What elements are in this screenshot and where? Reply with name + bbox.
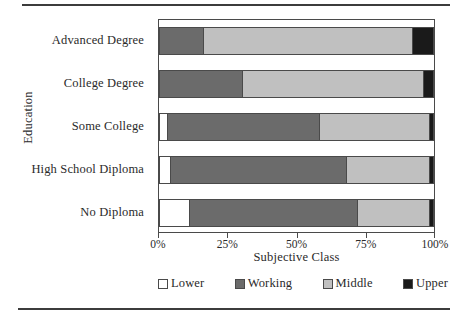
bar-segment-upper[interactable] bbox=[423, 70, 434, 98]
x-axis-tick-label: 100% bbox=[422, 238, 449, 250]
legend-swatch-icon bbox=[323, 279, 333, 289]
legend-label: Working bbox=[248, 276, 292, 291]
top-rule bbox=[22, 4, 450, 6]
y-axis-tick-label: College Degree bbox=[64, 76, 144, 91]
legend-label: Upper bbox=[416, 276, 448, 291]
bar-segment-middle[interactable] bbox=[319, 113, 429, 141]
legend-label: Lower bbox=[171, 276, 204, 291]
bottom-rule bbox=[18, 308, 450, 310]
bar-segment-upper[interactable] bbox=[412, 27, 434, 55]
bar-row[interactable] bbox=[159, 70, 434, 98]
x-axis-title: Subjective Class bbox=[158, 250, 435, 265]
y-axis-tick-label: No Diploma bbox=[80, 204, 144, 219]
y-axis-tick-label: Some College bbox=[72, 119, 144, 134]
bar-segment-working[interactable] bbox=[159, 27, 203, 55]
x-axis-tick-label: 25% bbox=[217, 238, 238, 250]
bar-row[interactable] bbox=[159, 113, 434, 141]
plot-area bbox=[158, 19, 435, 233]
legend-swatch-icon bbox=[403, 279, 413, 289]
legend-item-middle[interactable]: Middle bbox=[323, 276, 373, 291]
bar-segment-upper[interactable] bbox=[429, 156, 435, 184]
bar-segment-working[interactable] bbox=[170, 156, 346, 184]
legend-swatch-icon bbox=[235, 279, 245, 289]
legend-item-working[interactable]: Working bbox=[235, 276, 292, 291]
legend-label: Middle bbox=[336, 276, 373, 291]
bar-row[interactable] bbox=[159, 156, 434, 184]
legend-item-lower[interactable]: Lower bbox=[158, 276, 204, 291]
bar-segment-lower[interactable] bbox=[159, 156, 170, 184]
x-axis-tick-label: 50% bbox=[286, 238, 307, 250]
y-axis-tick-label: Advanced Degree bbox=[52, 33, 144, 48]
figure-container: Education Advanced DegreeCollege DegreeS… bbox=[0, 0, 465, 318]
bar-segment-working[interactable] bbox=[167, 113, 318, 141]
legend-item-upper[interactable]: Upper bbox=[403, 276, 448, 291]
legend-swatch-icon bbox=[158, 279, 168, 289]
bar-segment-middle[interactable] bbox=[357, 199, 429, 227]
legend: LowerWorkingMiddleUpper bbox=[158, 276, 448, 291]
x-axis-tick-label: 75% bbox=[355, 238, 376, 250]
bar-segment-middle[interactable] bbox=[242, 70, 424, 98]
bar-segment-lower[interactable] bbox=[159, 199, 189, 227]
bar-segment-upper[interactable] bbox=[429, 199, 435, 227]
bar-segment-middle[interactable] bbox=[203, 27, 412, 55]
bar-segment-upper[interactable] bbox=[429, 113, 435, 141]
y-axis-tick-label: High School Diploma bbox=[31, 161, 144, 176]
bar-row[interactable] bbox=[159, 199, 434, 227]
bar-segment-working[interactable] bbox=[159, 70, 242, 98]
bar-segment-working[interactable] bbox=[189, 199, 357, 227]
y-axis-tick-labels: Advanced DegreeCollege DegreeSome Colleg… bbox=[18, 19, 152, 233]
bar-segment-middle[interactable] bbox=[346, 156, 429, 184]
bar-row[interactable] bbox=[159, 27, 434, 55]
bar-segment-lower[interactable] bbox=[159, 113, 167, 141]
x-axis-tick-label: 0% bbox=[150, 238, 165, 250]
